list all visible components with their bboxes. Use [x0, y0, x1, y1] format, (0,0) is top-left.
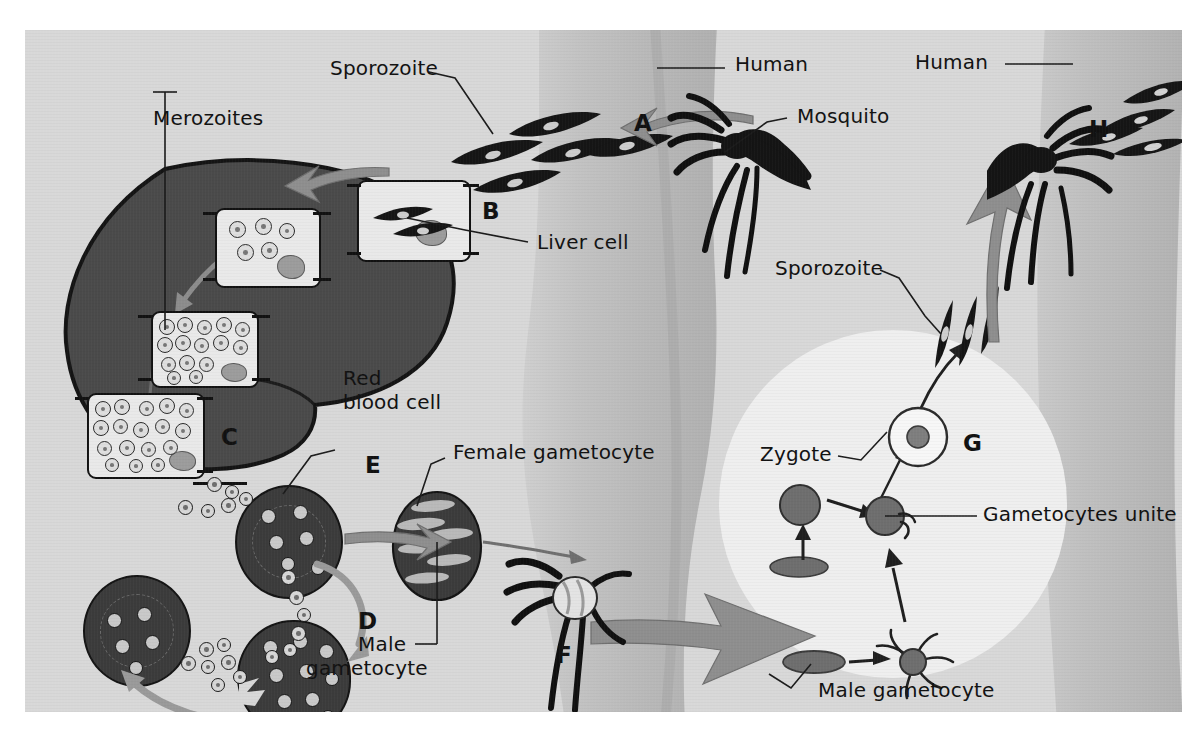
label-zygote: Zygote	[760, 444, 832, 465]
malaria-life-cycle-figure: Sporozoite Merozoites Liver cell Human M…	[25, 30, 1182, 712]
label-male-gametocyte-line2: gametocyte	[306, 658, 428, 679]
stage-letter-a: A	[634, 110, 652, 136]
label-merozoites: Merozoites	[153, 108, 263, 129]
label-red-blood-cell-line2: blood cell	[343, 392, 441, 413]
label-liver-cell: Liver cell	[537, 232, 629, 253]
stage-letter-b: B	[482, 198, 500, 224]
label-sporozoite-gut: Sporozoite	[775, 258, 883, 279]
label-human-right: Human	[915, 52, 988, 73]
figure-canvas: Sporozoite Merozoites Liver cell Human M…	[0, 0, 1201, 756]
label-female-gametocyte: Female gametocyte	[453, 442, 655, 463]
label-male-gametocyte-line1: Male	[358, 634, 406, 655]
label-gametocytes-unite: Gametocytes unite	[983, 504, 1177, 525]
label-sporozoite-top: Sporozoite	[330, 58, 438, 79]
label-red-blood-cell-line1: Red	[343, 368, 382, 389]
stage-letter-e: E	[365, 452, 381, 478]
stage-letter-c: C	[221, 424, 238, 450]
stage-letter-g: G	[963, 430, 982, 456]
label-human-left: Human	[735, 54, 808, 75]
label-mosquito: Mosquito	[797, 106, 890, 127]
label-male-gametocyte-gut: Male gametocyte	[818, 680, 995, 701]
stage-letter-d: D	[358, 608, 377, 634]
label-leader-lines	[25, 30, 1182, 712]
stage-letter-f: F	[556, 642, 572, 668]
stage-letter-h: H	[1089, 116, 1108, 142]
